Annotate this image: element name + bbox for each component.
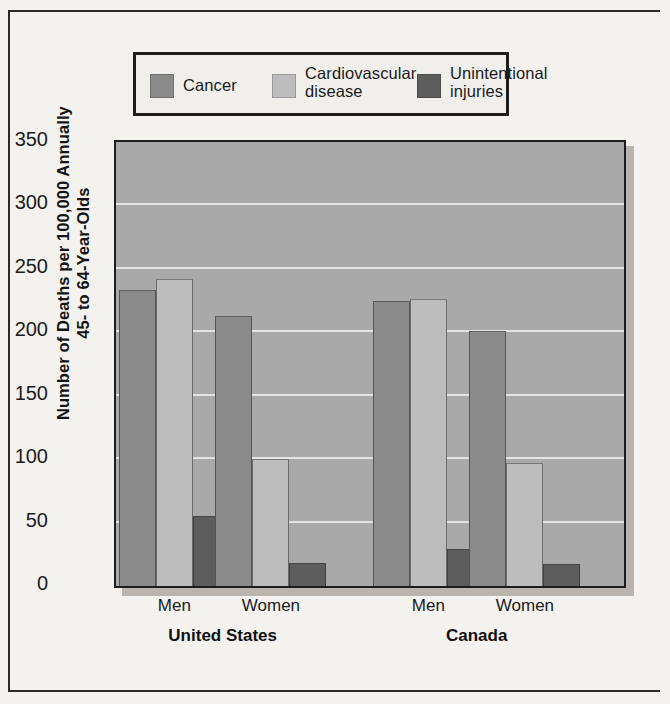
bar-series-container	[116, 142, 624, 586]
x-axis-tick-united-states-women: Women	[221, 596, 321, 616]
legend-swatch-cancer	[150, 74, 174, 98]
legend-label-unintentional-injuries: Unintentional injuries	[450, 65, 548, 101]
x-axis-tick-united-states-men: Men	[124, 596, 224, 616]
y-axis-tick-300: 300	[0, 191, 48, 214]
bar	[543, 564, 580, 586]
bar	[215, 316, 252, 586]
x-axis-group-label-canada: Canada	[387, 626, 567, 646]
page-background: Cancer Cardiovascular disease Unintentio…	[0, 0, 670, 704]
bar	[506, 463, 543, 586]
legend-label-cancer: Cancer	[183, 77, 237, 95]
plot-area	[114, 140, 626, 588]
legend-item-cancer: Cancer	[150, 74, 237, 98]
page-border-top	[8, 10, 660, 12]
legend-swatch-unintentional-injuries	[417, 74, 441, 98]
bar	[119, 290, 156, 586]
y-axis-tick-150: 150	[0, 382, 48, 405]
bar	[410, 299, 447, 586]
page-border-bottom	[8, 690, 660, 692]
bar	[373, 301, 410, 586]
bar	[252, 459, 289, 586]
bar	[289, 563, 326, 586]
legend-label-cardiovascular-disease: Cardiovascular disease	[305, 65, 416, 101]
y-axis-tick-50: 50	[0, 509, 48, 532]
y-axis-tick-350: 350	[0, 128, 48, 151]
x-axis-group-label-united-states: United States	[133, 626, 313, 646]
legend-swatch-cardiovascular-disease	[272, 74, 296, 98]
bar	[469, 331, 506, 586]
chart-legend: Cancer Cardiovascular disease Unintentio…	[133, 52, 509, 116]
x-axis-tick-canada-women: Women	[475, 596, 575, 616]
y-axis-title: Number of Deaths per 100,000 Annually 45…	[53, 43, 93, 483]
y-axis-tick-200: 200	[0, 318, 48, 341]
legend-item-unintentional-injuries: Unintentional injuries	[417, 65, 548, 101]
y-axis-tick-100: 100	[0, 445, 48, 468]
legend-item-cardiovascular-disease: Cardiovascular disease	[272, 65, 416, 101]
y-axis-tick-0: 0	[0, 572, 48, 595]
x-axis-tick-canada-men: Men	[378, 596, 478, 616]
bar	[156, 279, 193, 586]
y-axis-tick-250: 250	[0, 255, 48, 278]
